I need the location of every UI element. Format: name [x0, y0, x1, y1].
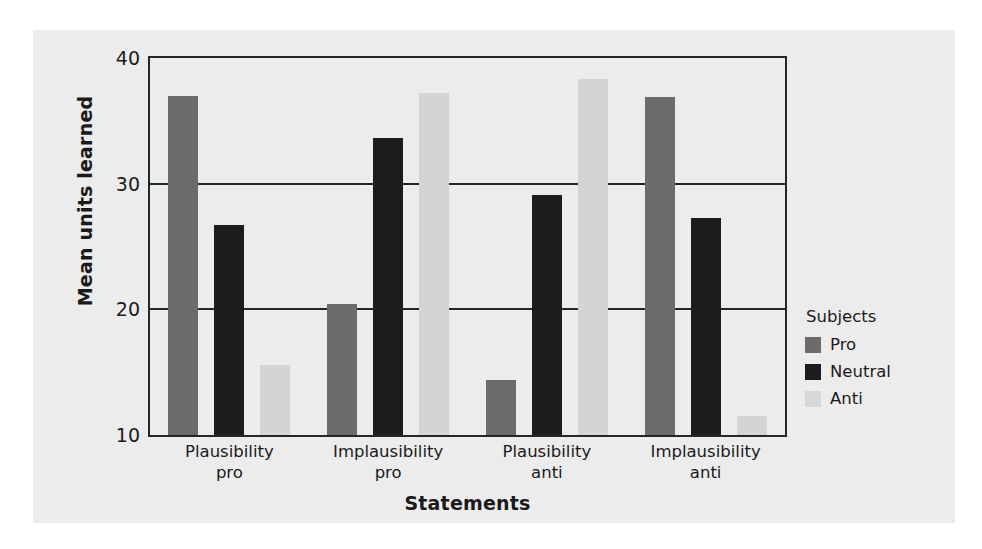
- legend-title: Subjects: [805, 307, 945, 326]
- chart-legend: Subjects Pro Neutral Anti: [805, 307, 945, 416]
- legend-item-neutral: Neutral: [805, 362, 945, 381]
- bar-pro-group-3: [486, 380, 516, 435]
- plot-area: 10203040PlausibilityproImplausibilitypro…: [148, 56, 787, 437]
- bar-pro-group-1: [168, 96, 198, 435]
- gridline-30: [150, 183, 785, 185]
- y-tick-label-10: 10: [116, 424, 140, 446]
- legend-item-anti: Anti: [805, 389, 945, 408]
- bar-neutral-group-2: [373, 138, 403, 435]
- bar-anti-group-4: [737, 416, 767, 435]
- legend-item-pro: Pro: [805, 335, 945, 354]
- legend-swatch-anti-icon: [805, 391, 821, 407]
- bar-anti-group-1: [260, 365, 290, 435]
- bar-anti-group-3: [578, 79, 608, 435]
- legend-label-neutral: Neutral: [830, 362, 891, 381]
- bar-neutral-group-1: [214, 225, 244, 435]
- y-tick-label-20: 20: [116, 298, 140, 320]
- bar-pro-group-4: [645, 97, 675, 435]
- x-axis-title: Statements: [148, 492, 787, 514]
- legend-label-anti: Anti: [830, 389, 863, 408]
- y-tick-label-40: 40: [116, 47, 140, 69]
- legend-swatch-neutral-icon: [805, 364, 821, 380]
- x-tick-label-4: Implausibilityanti: [651, 441, 761, 483]
- bar-neutral-group-3: [532, 195, 562, 435]
- y-tick-label-30: 30: [116, 173, 140, 195]
- legend-label-pro: Pro: [830, 335, 856, 354]
- chart-figure: Mean units learned 10203040Plausibilityp…: [33, 30, 955, 523]
- x-tick-label-3: Plausibilityanti: [503, 441, 592, 483]
- bar-anti-group-2: [419, 93, 449, 435]
- x-tick-label-1: Plausibilitypro: [185, 441, 274, 483]
- legend-swatch-pro-icon: [805, 337, 821, 353]
- gridline-40: [150, 57, 785, 59]
- bar-pro-group-2: [327, 304, 357, 435]
- x-tick-label-2: Implausibilitypro: [333, 441, 443, 483]
- bar-neutral-group-4: [691, 218, 721, 435]
- y-axis-title: Mean units learned: [74, 81, 96, 321]
